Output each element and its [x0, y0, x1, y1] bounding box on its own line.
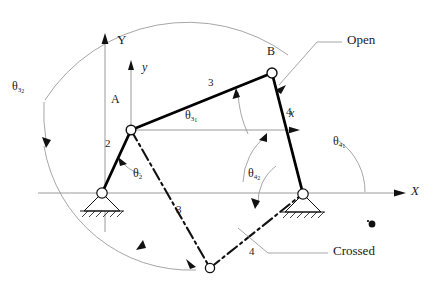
theta-3-2-arc-left: [44, 102, 46, 140]
o4-hatching: [283, 212, 324, 218]
scan-artifacts: [367, 220, 376, 228]
diagram-canvas: Y X y x A B 2 3 4 3 4 θ32 θ31 θ2 θ41 θ42…: [0, 0, 440, 294]
theta-3-1-arc: [238, 92, 248, 134]
theta-3-1-subsub: 1: [194, 117, 197, 123]
open-leader: [279, 42, 342, 85]
crossed-callout-label: Crossed: [333, 243, 375, 259]
theta-2-sub: 2: [139, 173, 143, 181]
theta-3-2-arc-upper: [45, 22, 288, 100]
o4-pin: [298, 189, 308, 199]
local-y-axis-arrow: [128, 60, 134, 70]
link-label-3-crossed: 3: [176, 203, 182, 215]
open-callout-label: Open: [347, 32, 375, 48]
joint-b: [267, 68, 277, 78]
theta-2-arrowhead: [118, 157, 127, 166]
joint-b-crossed: [205, 263, 214, 272]
link-4-crossed-arrowhead: [136, 240, 146, 250]
construction-arcs: [44, 22, 365, 270]
crossed-configuration: [131, 130, 300, 268]
o2-hatching: [82, 211, 123, 217]
angle-arrowheads: [42, 88, 267, 269]
global-y-axis-arrow: [102, 33, 109, 44]
link-label-2: 2: [105, 137, 111, 149]
global-x-axis-label: X: [411, 183, 419, 199]
angle-label-theta-4-2: θ42: [248, 166, 260, 181]
theta-3-2-subsub: 2: [21, 88, 24, 94]
global-x-axis-arrow: [394, 189, 406, 196]
theta-4-2-subsub: 2: [257, 175, 260, 181]
local-y-axis-label: y: [142, 60, 147, 75]
ground-pivot-o2: [80, 188, 124, 217]
link-3-crossed-arrowhead: [186, 259, 196, 269]
theta-3-2-arrowhead: [42, 137, 51, 148]
theta-4-2-arc: [258, 166, 276, 205]
angle-label-theta-3-2: θ32: [12, 79, 24, 94]
angle-label-theta-4-1: θ41: [333, 134, 345, 149]
link-label-4-open: 4: [286, 105, 292, 117]
theta-4-1-subsub: 1: [342, 143, 345, 149]
link-3-open-line: [131, 73, 272, 130]
link-4-open-line: [272, 73, 303, 194]
theta-4-2-arrowhead: [251, 198, 260, 209]
theta-4-1-arrowhead: [259, 133, 267, 142]
angle-label-theta-3-1: θ31: [185, 108, 197, 123]
link-label-4-crossed: 4: [249, 245, 255, 257]
link-label-3-open: 3: [208, 76, 214, 88]
joint-label-b: B: [267, 44, 275, 59]
local-x-axis-arrow: [289, 127, 300, 133]
global-y-axis-label: Y: [117, 32, 126, 48]
joint-a: [126, 125, 136, 135]
o2-pin: [97, 188, 107, 198]
angle-label-theta-2: θ2: [133, 166, 142, 181]
joint-label-a: A: [111, 92, 120, 107]
